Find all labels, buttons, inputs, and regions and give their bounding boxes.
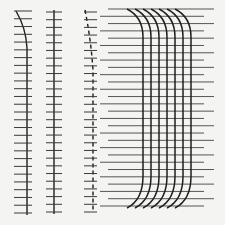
diagram-canvas	[0, 0, 225, 225]
panel-d-strand	[127, 9, 143, 208]
fiber-diagram	[0, 0, 225, 225]
